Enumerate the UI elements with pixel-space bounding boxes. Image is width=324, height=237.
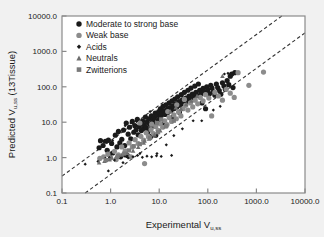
data-point	[126, 140, 131, 145]
data-point	[224, 87, 229, 92]
x-tick-label: 0.1	[56, 197, 68, 206]
data-point	[132, 144, 136, 148]
data-point	[174, 102, 179, 107]
data-point	[148, 136, 152, 140]
data-point	[104, 158, 108, 162]
legend-marker-circle-icon	[76, 33, 81, 38]
data-point	[116, 129, 121, 134]
data-point	[232, 95, 237, 100]
data-point	[119, 144, 124, 149]
data-point	[228, 91, 233, 96]
data-point	[178, 113, 183, 118]
data-point	[185, 107, 190, 112]
x-tick-label: 1.0	[105, 197, 117, 206]
data-point	[235, 70, 240, 75]
data-point	[220, 98, 225, 103]
data-point	[172, 119, 176, 123]
data-point	[155, 121, 159, 125]
data-point	[124, 120, 129, 125]
data-point	[159, 117, 163, 121]
data-point	[127, 148, 131, 152]
data-point	[164, 124, 168, 128]
y-tick-label: 10.0	[41, 118, 57, 127]
y-tick-label: 10000.0	[28, 12, 57, 21]
data-point	[122, 151, 126, 155]
data-point	[97, 145, 102, 150]
data-point	[142, 161, 147, 166]
y-tick-label: 1.0	[46, 154, 58, 163]
x-tick-label: 10.0	[151, 197, 167, 206]
x-tick-label: 100.0	[198, 197, 219, 206]
x-tick-label: 1000.0	[244, 197, 269, 206]
y-tick-label: 100.0	[37, 83, 58, 92]
x-axis-title: Experimental Vu,ss	[146, 219, 221, 231]
data-point	[206, 95, 211, 100]
x-tick-label: 10000.0	[291, 197, 320, 206]
data-point	[112, 149, 117, 154]
data-point	[109, 141, 114, 146]
data-point	[138, 142, 142, 146]
legend-marker-square-icon	[77, 67, 82, 72]
data-point	[261, 70, 266, 75]
data-point	[149, 122, 154, 127]
data-point	[226, 82, 231, 87]
y-tick-label: 1000.0	[33, 47, 58, 56]
data-point	[196, 81, 201, 86]
data-point	[216, 93, 221, 98]
data-point	[209, 113, 214, 118]
data-point	[137, 120, 142, 125]
legend-label: Moderate to strong base	[86, 19, 178, 29]
data-point	[121, 127, 126, 132]
data-point	[200, 98, 205, 103]
data-point	[203, 106, 208, 111]
data-point	[127, 125, 132, 130]
data-point	[195, 101, 200, 106]
data-point	[156, 130, 160, 134]
legend-marker-circle-icon	[76, 21, 81, 26]
legend-label: Weak base	[86, 30, 129, 40]
data-point	[126, 132, 131, 137]
y-tick-label: 0.1	[46, 189, 58, 198]
data-point	[182, 97, 187, 102]
data-point	[119, 137, 124, 142]
chart-canvas: 0.11.010.0100.01000.010000.0 0.11.010.01…	[0, 0, 324, 237]
data-point	[190, 104, 195, 109]
scatter-plot-figure: 0.11.010.0100.01000.010000.0 0.11.010.01…	[0, 0, 324, 237]
data-point	[116, 154, 120, 158]
data-point	[246, 83, 251, 88]
legend-label: Neutrals	[86, 53, 118, 63]
legend-label: Zwitterions	[86, 65, 127, 75]
data-point	[230, 85, 235, 90]
legend-label: Acids	[86, 42, 107, 52]
